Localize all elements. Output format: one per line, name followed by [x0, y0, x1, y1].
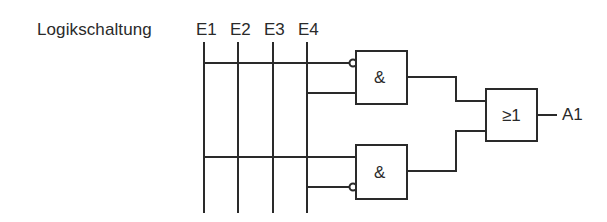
logic-circuit: & & ≥1: [0, 0, 607, 222]
and-gate-bottom-symbol: &: [374, 163, 386, 182]
wire-and-top-to-or: [407, 77, 486, 101]
and-gate-top-symbol: &: [374, 68, 386, 87]
output-label-a1: A1: [562, 105, 583, 125]
wire-and-bottom-to-or: [407, 131, 486, 171]
or-gate-symbol: ≥1: [502, 106, 521, 125]
